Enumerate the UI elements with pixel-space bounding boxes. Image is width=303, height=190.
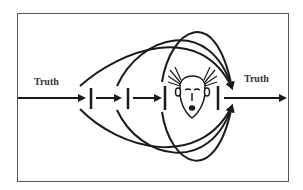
diagram-canvas (0, 0, 303, 190)
output-label: Truth (244, 73, 269, 84)
worried-face-icon (168, 67, 217, 118)
bypass-arcs (80, 32, 232, 160)
input-label: Truth (34, 76, 59, 87)
